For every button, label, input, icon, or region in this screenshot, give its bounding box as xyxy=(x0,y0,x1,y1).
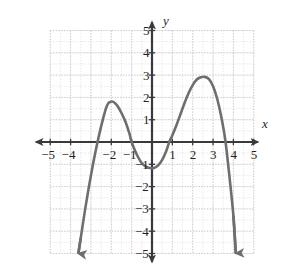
x-tick-label: 4 xyxy=(230,148,237,161)
x-tick-label: 3 xyxy=(210,148,217,161)
curve-left-end-arrow xyxy=(78,238,80,254)
y-tick-label: −1 xyxy=(135,158,149,171)
y-tick-label: 4 xyxy=(143,46,150,59)
x-tick-label: 5 xyxy=(251,148,258,161)
x-tick-label: 2 xyxy=(190,148,197,161)
x-tick-label: −4 xyxy=(62,148,76,161)
y-axis-label: y xyxy=(163,14,169,27)
y-tick-label: 3 xyxy=(143,69,150,82)
x-tick-label: −2 xyxy=(102,148,116,161)
y-tick-label: −4 xyxy=(135,225,149,238)
y-tick-label: −3 xyxy=(135,202,149,215)
y-tick-label: −5 xyxy=(135,247,149,260)
y-tick-label: 2 xyxy=(143,91,150,104)
x-tick-label: −5 xyxy=(41,148,55,161)
function-curve xyxy=(78,77,236,254)
curve-right-end-arrow xyxy=(233,216,235,254)
x-axis-label: x xyxy=(262,117,268,130)
y-tick-label: −2 xyxy=(135,180,149,193)
x-tick-label: 1 xyxy=(169,148,176,161)
coordinate-graph-figure: −5−4−2−112345 54321−1−2−3−4−5 y x xyxy=(0,0,285,267)
y-tick-label: 1 xyxy=(143,113,150,126)
y-tick-label: 5 xyxy=(143,24,150,37)
